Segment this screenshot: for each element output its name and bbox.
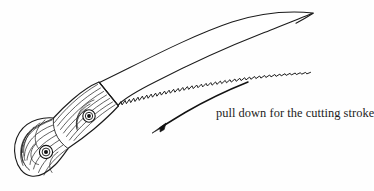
rivet-upper	[83, 110, 95, 122]
caption-label: pull down for the cutting stroke	[216, 106, 374, 120]
saw-blade-group	[100, 12, 314, 106]
arrow-head-icon	[152, 123, 166, 133]
saw-handle-group	[15, 82, 119, 176]
rivet-lower	[39, 145, 52, 158]
blade-body	[100, 12, 314, 105]
